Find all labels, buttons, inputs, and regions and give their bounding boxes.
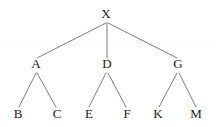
tree-node-g: G bbox=[173, 56, 182, 71]
background-band bbox=[0, 43, 216, 47]
tree-diagram: X A D G B C E F K M bbox=[0, 0, 216, 127]
edge-x-a bbox=[37, 23, 106, 58]
tree-diagram-canvas: X A D G B C E F K M bbox=[0, 0, 216, 127]
tree-node-b: B bbox=[14, 106, 23, 121]
edge-d-e bbox=[89, 73, 106, 107]
tree-node-f: F bbox=[123, 106, 130, 121]
edge-g-m bbox=[179, 73, 196, 107]
tree-node-k: K bbox=[153, 106, 163, 121]
tree-node-d: D bbox=[102, 56, 111, 71]
tree-node-c: C bbox=[53, 106, 62, 121]
tree-node-m: M bbox=[190, 106, 202, 121]
edge-g-k bbox=[159, 73, 177, 107]
edge-d-f bbox=[108, 73, 126, 107]
tree-node-e: E bbox=[85, 106, 93, 121]
edge-a-b bbox=[19, 73, 36, 107]
edge-a-c bbox=[37, 73, 56, 107]
tree-node-a: A bbox=[31, 56, 41, 71]
tree-node-x: X bbox=[101, 6, 111, 21]
edge-x-g bbox=[108, 23, 177, 58]
